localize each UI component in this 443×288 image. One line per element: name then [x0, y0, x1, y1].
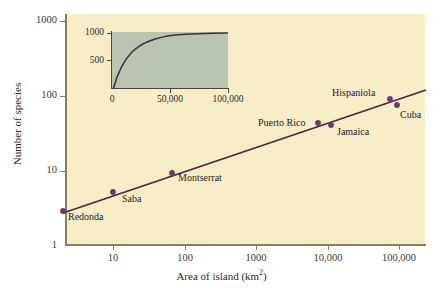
inset-data-layer [0, 0, 443, 288]
inset-curve [114, 33, 229, 88]
species-area-chart-figure: 1000 100 10 1 10 100 1000 10,000 100,000… [0, 0, 443, 288]
